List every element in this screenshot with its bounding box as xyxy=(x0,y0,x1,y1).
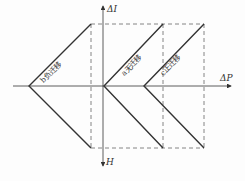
migration-diagram: ΔI ΔP H b负迁移 a无迁移 c正迁移 xyxy=(0,0,245,181)
delta-i-label: ΔI xyxy=(107,4,117,14)
h-label: H xyxy=(106,157,114,167)
diagram-graphics xyxy=(0,0,245,181)
delta-p-label: ΔP xyxy=(220,73,233,83)
